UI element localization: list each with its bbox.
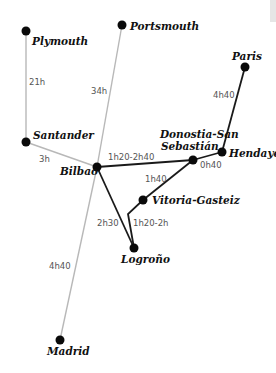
city-label-madrid: Madrid [46,345,90,357]
time-label-donostia-vitoria: 1h40 [145,174,167,184]
route-bilbao-logrono [97,167,134,248]
time-label-plymouth-santander: 21h [29,77,45,87]
city-dot-donostia[interactable] [189,156,198,165]
city-dot-madrid[interactable] [56,336,65,345]
city-label-vitoria: Vitoria-Gasteiz [152,194,241,206]
scrollbar-edge[interactable] [270,0,276,22]
city-dot-plymouth[interactable] [22,27,31,36]
city-dot-logrono[interactable] [130,244,139,253]
route-portsmouth-bilbao [97,25,122,167]
city-dots [22,21,250,345]
city-label-santander: Santander [33,129,95,141]
city-dot-vitoria[interactable] [139,196,148,205]
city-dot-santander[interactable] [22,138,31,147]
time-label-santander-bilbao: 3h [39,154,50,164]
city-dot-hendaye[interactable] [218,148,227,157]
time-label-hendaye-paris: 4h40 [213,90,235,100]
city-label-hendaye: Hendaye [228,147,276,159]
time-label-vitoria-logrono: 1h20-2h [133,218,168,228]
city-label-logrono: Logroño [120,253,170,265]
city-label-paris: Paris [231,50,262,62]
time-label-bilbao-donostia: 1h20-2h40 [108,152,154,162]
route-santander-bilbao [26,142,97,167]
city-label-donostia-line2: Sebastián [161,140,219,152]
route-donostia-hendaye [193,152,222,160]
city-label-portsmouth: Portsmouth [129,20,199,32]
time-label-portsmouth-bilbao: 34h [91,86,107,96]
city-label-donostia-line1: Donostia-San [159,128,239,140]
time-label-donostia-hendaye: 0h40 [200,160,222,170]
route-map: Plymouth Portsmouth Paris Santander Bilb… [0,0,276,373]
ferry-routes [26,25,122,340]
time-label-bilbao-logrono: 2h30 [97,218,119,228]
city-dot-paris[interactable] [241,63,250,72]
city-label-bilbao: Bilbao [59,165,98,177]
city-label-plymouth: Plymouth [31,35,88,47]
route-bilbao-madrid [60,167,97,340]
time-label-bilbao-madrid: 4h40 [49,261,71,271]
city-dot-portsmouth[interactable] [118,21,127,30]
